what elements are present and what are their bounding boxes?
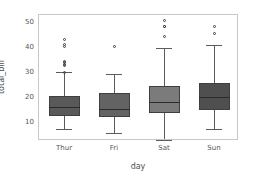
cap-upper <box>106 74 122 75</box>
whisker-lower <box>164 113 165 140</box>
y-axis-label: total_bill <box>0 60 6 94</box>
outlier-point <box>163 35 166 38</box>
whisker-upper <box>214 45 215 83</box>
outlier-point <box>63 60 66 63</box>
x-tick-label-thur: Thur <box>56 145 72 152</box>
whisker-lower <box>64 116 65 128</box>
whisker-upper <box>64 72 65 96</box>
outlier-point <box>113 45 116 48</box>
outlier-point <box>213 25 216 28</box>
box-sat <box>149 86 180 113</box>
median-line <box>199 97 230 98</box>
x-tick-label-fri: Fri <box>110 145 118 152</box>
y-tick-label: 30 <box>25 69 34 76</box>
x-tick-label-sun: Sun <box>207 145 220 152</box>
y-tick-label: 20 <box>25 94 34 101</box>
x-axis-label: day <box>38 163 238 171</box>
whisker-lower <box>114 117 115 133</box>
outlier-point <box>63 43 66 46</box>
x-tick-label-sat: Sat <box>158 145 169 152</box>
median-line <box>49 107 80 108</box>
whisker-upper <box>164 48 165 86</box>
median-line <box>149 102 180 103</box>
cap-upper <box>206 45 222 46</box>
outlier-point <box>163 25 166 28</box>
cap-upper <box>156 48 172 49</box>
figure-canvas: total_bill 1020304050ThurFriSatSun day <box>0 0 258 182</box>
plot-area: 1020304050ThurFriSatSun <box>39 15 237 139</box>
y-tick-label: 40 <box>25 44 34 51</box>
outlier-point <box>213 32 216 35</box>
whisker-upper <box>114 74 115 93</box>
box-fri <box>99 93 130 117</box>
cap-lower <box>206 129 222 130</box>
whisker-lower <box>214 110 215 129</box>
cap-lower <box>56 129 72 130</box>
outlier-point <box>63 71 66 74</box>
plot-axes: 1020304050ThurFriSatSun <box>38 14 238 140</box>
outlier-point <box>63 38 66 41</box>
outlier-point <box>163 19 166 22</box>
cap-lower <box>106 133 122 134</box>
cap-lower <box>156 140 172 141</box>
y-tick-label: 50 <box>25 19 34 26</box>
y-tick-label: 10 <box>25 119 34 126</box>
median-line <box>99 109 130 110</box>
